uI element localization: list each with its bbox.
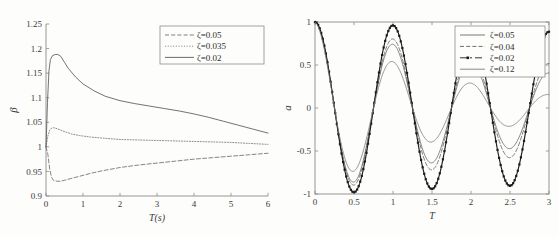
left-y-tick-label: 0.95	[26, 167, 42, 177]
right-marker	[517, 170, 519, 172]
right-marker	[520, 156, 522, 158]
right-x-tick-label: 1.5	[426, 197, 438, 207]
right-marker	[417, 142, 419, 144]
right-marker	[514, 179, 516, 181]
left-x-tick-label: 4	[192, 199, 197, 209]
right-marker	[525, 131, 527, 133]
right-marker	[512, 182, 514, 184]
right-marker	[500, 164, 502, 166]
right-y-tick-label: 0	[307, 103, 312, 113]
right-legend-label-3: ζ=0.12	[490, 64, 515, 74]
left-y-axis-label: β	[7, 107, 19, 114]
right-marker	[358, 185, 360, 187]
right-marker	[510, 184, 512, 186]
right-marker	[350, 189, 352, 191]
right-legend-label-1: ζ=0.04	[490, 42, 515, 52]
right-marker	[409, 92, 411, 94]
left-x-axis-label: T(s)	[149, 212, 166, 224]
right-marker	[432, 187, 434, 189]
left-y-tick-label: 1.2	[31, 44, 42, 54]
right-marker	[404, 63, 406, 65]
right-marker	[376, 81, 378, 83]
right-plot-canvas: -1-0.500.5100.511.522.53Taζ=0.05ζ=0.04ζ=…	[279, 0, 558, 236]
right-marker	[406, 72, 408, 74]
right-marker	[493, 131, 495, 133]
right-x-tick-label: 0	[313, 197, 318, 207]
right-marker	[523, 140, 525, 142]
right-marker	[489, 102, 491, 104]
left-series-curve-2	[46, 54, 268, 146]
chart-left-beta-vs-period: 0.90.9511.051.11.151.21.250123456T(s)βζ=…	[0, 0, 279, 236]
right-marker	[526, 121, 528, 123]
right-marker	[348, 185, 350, 187]
right-marker	[389, 27, 391, 29]
right-marker	[521, 148, 523, 150]
right-marker	[495, 140, 497, 142]
right-marker	[347, 181, 349, 183]
right-marker	[515, 175, 517, 177]
left-legend-label-0: ζ=0.05	[197, 30, 222, 40]
right-marker	[375, 91, 377, 93]
right-marker	[498, 157, 500, 159]
right-x-tick-label: 1	[391, 197, 396, 207]
left-x-tick-label: 2	[118, 199, 123, 209]
right-marker	[426, 182, 428, 184]
right-marker	[342, 161, 344, 163]
right-marker	[423, 173, 425, 175]
right-legend-marker-2	[467, 57, 470, 60]
right-marker	[518, 163, 520, 165]
right-marker	[386, 34, 388, 36]
left-y-tick-label: 1.05	[26, 117, 42, 127]
right-marker	[492, 122, 494, 124]
right-marker	[420, 159, 422, 161]
right-marker	[400, 40, 402, 42]
right-marker	[496, 149, 498, 151]
right-marker	[378, 71, 380, 73]
right-marker	[397, 30, 399, 32]
right-marker	[487, 92, 489, 94]
right-x-tick-label: 2.5	[504, 197, 516, 207]
right-marker	[364, 160, 366, 162]
right-y-axis-label: a	[281, 105, 293, 111]
right-marker	[414, 122, 416, 124]
left-x-tick-label: 1	[81, 199, 86, 209]
right-y-tick-label: -1	[304, 189, 312, 199]
right-marker	[365, 152, 367, 154]
right-marker	[425, 178, 427, 180]
right-legend-label-0: ζ=0.05	[490, 30, 515, 40]
right-marker	[454, 82, 456, 84]
right-marker	[381, 54, 383, 56]
right-marker	[340, 152, 342, 154]
right-marker	[531, 92, 533, 94]
right-marker	[442, 158, 444, 160]
right-marker	[532, 83, 534, 85]
left-y-tick-label: 1	[38, 142, 43, 152]
left-y-tick-label: 1.1	[31, 93, 42, 103]
right-marker	[383, 46, 385, 48]
right-marker	[445, 141, 447, 143]
right-x-tick-label: 3	[547, 197, 552, 207]
left-legend-label-2: ζ=0.02	[197, 53, 222, 63]
right-marker	[437, 178, 439, 180]
left-x-tick-label: 0	[44, 199, 49, 209]
right-marker	[503, 175, 505, 177]
left-legend: ζ=0.05ζ=0.035ζ=0.02	[160, 26, 264, 64]
left-y-tick-label: 1.15	[26, 68, 42, 78]
right-marker	[344, 169, 346, 171]
right-marker	[434, 185, 436, 187]
left-y-tick-label: 0.9	[31, 191, 43, 201]
left-x-tick-label: 6	[266, 199, 271, 209]
right-marker	[440, 166, 442, 168]
right-legend: ζ=0.05ζ=0.04ζ=0.02ζ=0.12	[455, 26, 545, 77]
right-marker	[443, 150, 445, 152]
left-x-tick-label: 3	[155, 199, 160, 209]
right-marker	[369, 133, 371, 135]
right-marker	[422, 166, 424, 168]
right-marker	[393, 25, 395, 27]
right-marker	[453, 92, 455, 94]
right-marker	[361, 175, 363, 177]
left-plot-canvas: 0.90.9511.051.11.151.21.250123456T(s)βζ=…	[0, 0, 279, 236]
right-y-tick-label: 0.5	[300, 60, 312, 70]
right-marker	[398, 35, 400, 37]
right-marker	[359, 181, 361, 183]
